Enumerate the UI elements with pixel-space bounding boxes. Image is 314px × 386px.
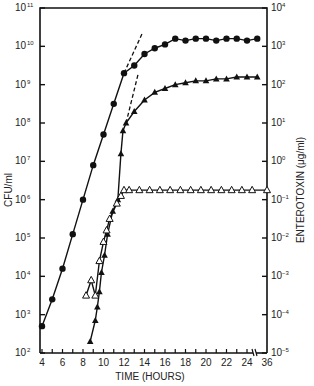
x-tick-label: 16: [159, 357, 171, 368]
svg-text:−2: −2: [282, 232, 290, 238]
growth-enterotoxin-chart: 468101214161820222436 102103104105106107…: [0, 0, 314, 386]
data-point: [98, 269, 105, 275]
x-tick-label: 22: [221, 357, 233, 368]
data-point: [111, 101, 117, 107]
y-left-tick-label: 10: [15, 194, 27, 205]
y-right-tick-label: 10: [271, 347, 283, 358]
y-right-tick-label: 10: [271, 117, 283, 128]
data-point: [94, 304, 101, 310]
y-left-tick-label: 10: [15, 40, 27, 51]
x-tick-label: 4: [39, 357, 45, 368]
x-tick-label: 10: [98, 357, 110, 368]
data-point: [88, 276, 95, 282]
svg-text:3: 3: [282, 40, 286, 46]
x-tick-label: 12: [118, 357, 130, 368]
data-point: [87, 338, 94, 344]
x-tick-label: 14: [139, 357, 151, 368]
svg-text:4: 4: [282, 2, 286, 8]
data-point: [96, 257, 103, 263]
data-point: [121, 70, 127, 76]
y-right-tick-label: 10: [271, 309, 283, 320]
series-line: [90, 77, 257, 342]
data-point: [70, 231, 76, 237]
y-left-tick-label: 10: [15, 309, 27, 320]
data-point: [100, 131, 106, 137]
y-right-tick-label: 10: [271, 194, 283, 205]
svg-text:2: 2: [282, 79, 286, 85]
data-point: [49, 296, 55, 302]
data-point: [59, 265, 65, 271]
data-series: [39, 33, 271, 344]
y-left-axis-title: CFU/ml: [3, 173, 14, 207]
y-left-tick-label: 10: [15, 347, 27, 358]
y-left-tick-label: 10: [15, 2, 27, 13]
y-right-tick-label: 10: [271, 79, 283, 90]
svg-text:8: 8: [27, 117, 31, 123]
y-left-tick-label: 10: [15, 232, 27, 243]
y-right-axis-ticks: 10−510−410−310−210−1100101102103104: [262, 2, 290, 358]
data-point: [172, 35, 178, 41]
svg-text:10: 10: [27, 40, 34, 46]
data-point: [92, 317, 99, 323]
data-point: [213, 37, 219, 43]
data-point: [182, 37, 188, 43]
data-point: [101, 252, 108, 258]
data-point: [83, 292, 90, 298]
x-tick-label: 6: [60, 357, 66, 368]
data-point: [80, 196, 86, 202]
data-point: [244, 37, 250, 43]
svg-text:3: 3: [27, 309, 31, 315]
data-point: [118, 150, 125, 156]
data-point: [152, 45, 158, 51]
svg-text:1: 1: [282, 117, 286, 123]
svg-text:−4: −4: [282, 309, 290, 315]
data-point: [96, 288, 103, 294]
svg-text:5: 5: [27, 232, 31, 238]
svg-text:2: 2: [27, 347, 31, 353]
svg-text:−3: −3: [282, 270, 290, 276]
data-point: [90, 162, 96, 168]
y-left-tick-label: 10: [15, 79, 27, 90]
svg-text:11: 11: [27, 2, 34, 8]
data-point: [203, 35, 209, 41]
series-line: [42, 39, 257, 327]
y-right-tick-label: 10: [271, 40, 283, 51]
y-left-tick-label: 10: [15, 155, 27, 166]
svg-text:6: 6: [27, 194, 31, 200]
data-point: [162, 41, 168, 47]
svg-text:−5: −5: [282, 347, 290, 353]
x-axis-title: TIME (HOURS): [115, 371, 184, 382]
svg-text:9: 9: [27, 79, 31, 85]
y-right-tick-label: 10: [271, 155, 283, 166]
data-point: [234, 35, 240, 41]
data-point: [254, 35, 260, 41]
data-point: [193, 35, 199, 41]
svg-text:0: 0: [282, 155, 286, 161]
x-tick-label: 36: [261, 357, 273, 368]
plot-frame: [40, 8, 267, 356]
data-point: [39, 323, 45, 329]
x-tick-label: 18: [180, 357, 192, 368]
y-left-tick-label: 10: [15, 270, 27, 281]
x-axis-ticks: 468101214161820222436: [39, 349, 273, 368]
svg-text:7: 7: [27, 155, 31, 161]
data-point: [223, 35, 229, 41]
data-point: [131, 62, 137, 68]
y-left-tick-label: 10: [15, 117, 27, 128]
x-tick-label: 8: [80, 357, 86, 368]
y-right-tick-label: 10: [271, 232, 283, 243]
data-point: [120, 127, 127, 133]
y-right-axis-title: ENTEROTOXIN (μg/ml): [295, 137, 306, 243]
svg-text:−1: −1: [282, 194, 290, 200]
y-right-tick-label: 10: [271, 2, 283, 13]
x-tick-label: 20: [200, 357, 212, 368]
y-right-tick-label: 10: [271, 270, 283, 281]
data-point: [141, 51, 147, 57]
svg-text:4: 4: [27, 270, 31, 276]
x-tick-label: 24: [241, 357, 253, 368]
